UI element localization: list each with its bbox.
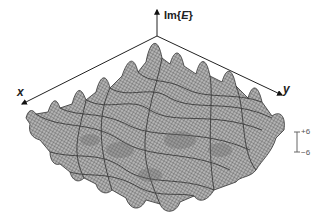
scale-bar [294, 132, 300, 152]
y-axis-label: y [283, 82, 290, 96]
surface-plot [0, 0, 329, 219]
wireframe-surface [26, 43, 284, 211]
scale-bar-top-label: +6 [301, 127, 310, 136]
vertical-axis-label: Im{E} [164, 9, 193, 21]
scale-bar-bottom-label: −6 [301, 148, 310, 157]
x-axis-label: x [17, 85, 24, 99]
